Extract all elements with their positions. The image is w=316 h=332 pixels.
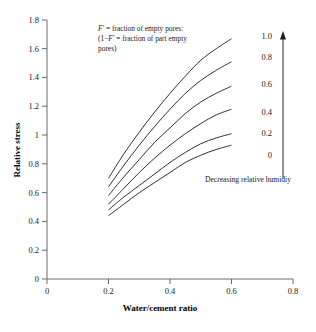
humidity-label-1: 0.8 xyxy=(261,52,272,62)
x-tick-label-2: 0.4 xyxy=(165,286,176,296)
y-tick-label-1: 0.2 xyxy=(28,245,39,255)
svg-text:(1−F' = fraction of part empty: (1−F' = fraction of part empty xyxy=(98,34,187,43)
y-axis-ticks xyxy=(42,20,47,279)
humidity-label-2: 0.6 xyxy=(261,79,272,89)
figure-container: 0 0.2 0.4 0.6 0.8 1 1.2 1.4 1.6 1.8 0 0.… xyxy=(0,0,316,332)
y-tick-label-8: 1.6 xyxy=(28,44,39,54)
annot-line3: pores) xyxy=(98,44,117,53)
y-tick-label-5: 1 xyxy=(35,130,39,140)
relative-stress-chart: 0 0.2 0.4 0.6 0.8 1 1.2 1.4 1.6 1.8 0 0.… xyxy=(0,0,316,332)
y-tick-label-2: 0.4 xyxy=(28,216,39,226)
annot-line2-pre: (1− xyxy=(98,34,108,43)
annot-line2-text: = fraction of part empty xyxy=(114,34,187,43)
cut-off-caption xyxy=(0,322,316,332)
svg-text:F' = fraction of empty pores:: F' = fraction of empty pores: xyxy=(97,24,183,33)
y-tick-label-3: 0.6 xyxy=(28,188,39,198)
humidity-label-5: 0 xyxy=(268,150,272,160)
y-axis-title: Relative stress xyxy=(12,122,22,178)
y-tick-label-7: 1.4 xyxy=(28,72,39,82)
x-tick-label-0: 0 xyxy=(45,286,49,296)
y-tick-label-6: 1.2 xyxy=(28,101,39,111)
plot-area-background xyxy=(47,20,293,279)
humidity-label-4: 0.2 xyxy=(261,128,272,138)
annot-line1-text: = fraction of empty pores: xyxy=(104,24,183,33)
x-tick-label-1: 0.2 xyxy=(103,286,114,296)
y-tick-label-9: 1.8 xyxy=(28,15,39,25)
x-tick-label-4: 0.8 xyxy=(288,286,299,296)
humidity-label-0: 1.0 xyxy=(261,31,272,41)
x-axis-title: Water/cement ratio xyxy=(123,303,198,313)
decreasing-humidity-label: Decreasing relative humidiy xyxy=(205,175,291,184)
y-tick-label-4: 0.8 xyxy=(28,159,39,169)
x-tick-label-3: 0.6 xyxy=(226,286,237,296)
humidity-label-3: 0.4 xyxy=(261,107,272,117)
y-tick-label-0: 0 xyxy=(35,274,39,284)
x-axis-ticks xyxy=(47,279,293,284)
